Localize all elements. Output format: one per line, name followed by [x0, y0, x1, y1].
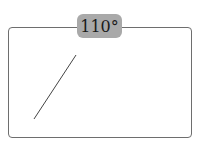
angle-label: 110°	[77, 14, 122, 38]
